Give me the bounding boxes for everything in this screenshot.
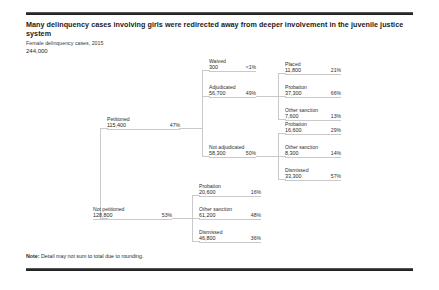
node-adj-other-sanction-pct: 13% xyxy=(331,113,341,120)
connector-level1-bracket xyxy=(100,128,101,218)
node-nadj-dismissed-pct: 57% xyxy=(331,173,341,180)
figure-note: Note: Detail may not sum to total due to… xyxy=(26,253,143,259)
node-np-dismissed[interactable]: Dismissed 46,800 36% xyxy=(199,229,261,243)
node-adj-other-sanction[interactable]: Other sanction 7,600 13% xyxy=(285,107,341,121)
node-waived-pct: <1% xyxy=(246,64,256,71)
node-waived[interactable]: Waived 300 <1% xyxy=(209,58,256,72)
figure-note-text: Detail may not sum to total due to round… xyxy=(40,253,144,259)
figure-note-prefix: Note: xyxy=(26,253,40,259)
node-not-adjudicated-pct: 50% xyxy=(246,150,256,157)
figure-page: Many delinquency cases involving girls w… xyxy=(0,0,439,290)
node-adjudicated[interactable]: Adjudicated 56,700 49% xyxy=(209,84,256,98)
node-nadj-other-sanction-pct: 14% xyxy=(331,150,341,157)
node-nadj-dismissed[interactable]: Dismissed 33,300 57% xyxy=(285,167,341,181)
node-nadj-probation-value: 16,600 xyxy=(285,127,302,134)
node-waived-value: 300 xyxy=(209,64,218,71)
bottom-rule xyxy=(26,268,413,271)
node-adjudicated-value: 56,700 xyxy=(209,90,226,97)
node-nadj-dismissed-value: 33,300 xyxy=(285,173,302,180)
figure-title: Many delinquency cases involving girls w… xyxy=(26,20,416,38)
node-adj-probation-pct: 66% xyxy=(331,90,341,97)
node-adj-probation[interactable]: Probation 37,300 66% xyxy=(285,84,341,98)
node-np-other-sanction-value: 61,200 xyxy=(199,212,216,219)
node-np-probation-pct: 16% xyxy=(251,189,261,196)
node-np-probation-value: 20,600 xyxy=(199,189,216,196)
node-not-petitioned-value: 128,800 xyxy=(93,212,113,219)
connector-adjudicated-out xyxy=(256,96,278,97)
connector-notpetitioned-out xyxy=(172,218,192,219)
node-petitioned-value: 115,400 xyxy=(107,122,126,129)
node-nadj-other-sanction-value: 8,300 xyxy=(285,150,299,157)
node-petitioned-pct: 47% xyxy=(170,122,180,129)
node-nadj-probation-pct: 29% xyxy=(331,127,341,134)
node-adjudicated-pct: 49% xyxy=(246,90,256,97)
figure-subtitle: Female delinquency cases, 2015 xyxy=(26,40,103,47)
node-nadj-other-sanction[interactable]: Other sanction 8,300 14% xyxy=(285,144,341,158)
node-adj-other-sanction-value: 7,600 xyxy=(285,113,299,120)
connector-petitioned-out xyxy=(179,128,202,129)
connector-notadjudicated-out xyxy=(256,156,278,157)
figure-total-value: 244,000 xyxy=(26,48,48,55)
node-adj-placed-value: 11,800 xyxy=(285,67,301,74)
top-rule xyxy=(26,12,413,15)
node-nadj-probation[interactable]: Probation 16,600 29% xyxy=(285,121,341,135)
node-petitioned[interactable]: Petitioned 115,400 47% xyxy=(107,116,180,130)
node-adj-placed-pct: 21% xyxy=(331,67,341,74)
node-np-dismissed-pct: 36% xyxy=(251,235,261,242)
node-adj-placed[interactable]: Placed 11,800 21% xyxy=(285,61,341,75)
node-not-adjudicated[interactable]: Not adjudicated 58,300 50% xyxy=(209,144,256,158)
node-np-other-sanction-pct: 48% xyxy=(251,212,261,219)
node-np-other-sanction[interactable]: Other sanction 61,200 48% xyxy=(199,206,261,220)
node-np-dismissed-value: 46,800 xyxy=(199,235,216,242)
node-not-petitioned-pct: 53% xyxy=(162,212,172,219)
node-adj-probation-value: 37,300 xyxy=(285,90,302,97)
node-np-probation[interactable]: Probation 20,600 16% xyxy=(199,183,261,197)
connector-level2-bracket xyxy=(202,70,203,156)
node-not-adjudicated-value: 58,300 xyxy=(209,150,226,157)
node-not-petitioned[interactable]: Not petitioned 128,800 53% xyxy=(93,206,172,220)
